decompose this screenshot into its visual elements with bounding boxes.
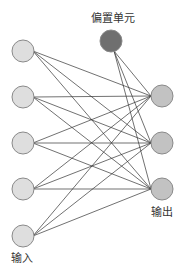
connection-edge [33, 96, 151, 97]
bias-edge [114, 51, 151, 189]
output-label: 输出 [151, 203, 173, 219]
connection-edge [33, 96, 151, 236]
input-node [12, 225, 34, 247]
connection-edge [33, 51, 151, 96]
neural-network-diagram: 偏置单元 输入 输出 [0, 0, 182, 271]
output-node [151, 178, 173, 200]
bias-label: 偏置单元 [91, 9, 135, 25]
network-graph [0, 0, 182, 271]
input-node [12, 40, 34, 62]
input-label: 输入 [11, 249, 33, 265]
connection-edge [33, 189, 151, 236]
bias-node [100, 30, 122, 52]
bias-edge [114, 51, 151, 143]
connection-edge [33, 143, 151, 236]
output-node [151, 85, 173, 107]
input-node [12, 132, 34, 154]
input-node [12, 86, 34, 108]
output-node [151, 132, 173, 154]
input-node [12, 178, 34, 200]
